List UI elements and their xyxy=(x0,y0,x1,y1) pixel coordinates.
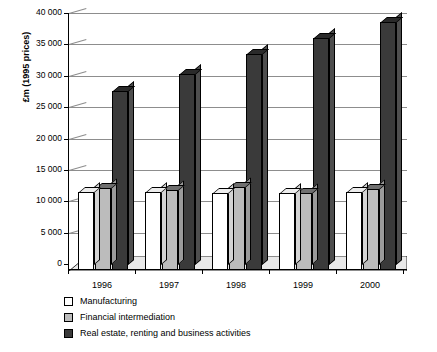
legend-item-label: Financial intermediation xyxy=(80,312,175,322)
x-tick-mark xyxy=(202,269,203,274)
bar-group xyxy=(346,8,413,270)
bar-chart: £m (1995 prices) 40 00035 00030 00025 00… xyxy=(0,0,437,352)
bar-side-face xyxy=(195,64,201,265)
y-axis-line xyxy=(68,13,69,269)
bar xyxy=(212,193,228,270)
legend-item-manufacturing: Manufacturing xyxy=(64,293,251,309)
y-tick-label: 25 000 xyxy=(16,101,62,111)
white-swatch-icon xyxy=(64,297,73,306)
bar-side-face xyxy=(396,12,402,265)
bar-side-face xyxy=(362,182,368,265)
bar-side-face xyxy=(262,44,268,265)
bar-front-face xyxy=(78,192,94,270)
y-tick-mark xyxy=(64,201,69,202)
y-tick-mark xyxy=(64,233,69,234)
bar-group xyxy=(78,8,145,270)
x-axis-label: 1996 xyxy=(72,280,132,290)
y-tick-mark xyxy=(64,107,69,108)
x-tick-mark xyxy=(403,269,404,274)
bar-front-face xyxy=(279,193,295,270)
bar-side-face xyxy=(111,178,117,265)
legend-item-real-estate: Real estate, renting and business activi… xyxy=(64,325,251,341)
bar xyxy=(145,192,161,270)
y-tick-mark xyxy=(64,76,69,77)
bar-side-face xyxy=(329,28,335,265)
bar-side-face xyxy=(295,183,301,265)
x-axis-label: 1998 xyxy=(206,280,266,290)
x-axis-label: 1999 xyxy=(273,280,333,290)
y-tick-label: 40 000 xyxy=(16,7,62,17)
y-tick-mark xyxy=(64,139,69,140)
x-tick-mark xyxy=(269,269,270,274)
dark-swatch-icon xyxy=(64,329,73,338)
bar xyxy=(346,192,362,270)
y-tick-label: 0 xyxy=(16,258,62,268)
y-tick-mark xyxy=(64,170,69,171)
y-tick-label: 20 000 xyxy=(16,133,62,143)
y-tick-mark xyxy=(64,13,69,14)
legend-item-financial-intermediation: Financial intermediation xyxy=(64,309,251,325)
legend: Manufacturing Financial intermediation R… xyxy=(64,293,251,341)
legend-item-label: Real estate, renting and business activi… xyxy=(80,328,251,338)
x-axis-label: 1997 xyxy=(139,280,199,290)
bar-side-face xyxy=(94,182,100,265)
x-tick-mark xyxy=(68,269,69,274)
bar-side-face xyxy=(245,177,251,265)
bar-side-face xyxy=(128,81,134,265)
bar-side-face xyxy=(178,180,184,265)
bar xyxy=(78,192,94,270)
gray-swatch-icon xyxy=(64,313,73,322)
y-tick-label: 15 000 xyxy=(16,164,62,174)
plot-area: 40 00035 00030 00025 00020 00015 00010 0… xyxy=(68,8,420,270)
x-tick-mark xyxy=(336,269,337,274)
x-tick-mark xyxy=(135,269,136,274)
bar-side-face xyxy=(379,179,385,265)
y-tick-label: 10 000 xyxy=(16,195,62,205)
bar-front-face xyxy=(346,192,362,270)
bar-front-face xyxy=(212,193,228,270)
bar-side-face xyxy=(312,183,318,265)
y-tick-label: 30 000 xyxy=(16,70,62,80)
legend-item-label: Manufacturing xyxy=(80,296,137,306)
bar-group xyxy=(279,8,346,270)
y-tick-label: 35 000 xyxy=(16,38,62,48)
bar-front-face xyxy=(145,192,161,270)
bar-group xyxy=(212,8,279,270)
y-tick-label: 5 000 xyxy=(16,227,62,237)
x-axis-label: 2000 xyxy=(340,280,400,290)
y-axis-title: £m (1995 prices) xyxy=(21,0,31,137)
y-tick-mark xyxy=(64,44,69,45)
bar-side-face xyxy=(228,183,234,265)
bar-group xyxy=(145,8,212,270)
bar xyxy=(279,193,295,270)
bar-side-face xyxy=(161,182,167,265)
